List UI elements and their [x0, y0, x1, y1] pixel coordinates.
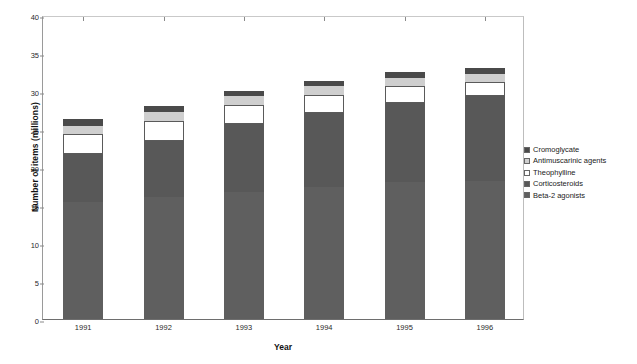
bar-segment	[144, 141, 184, 197]
legend-swatch-icon	[524, 147, 530, 153]
bar-segment	[465, 82, 505, 96]
x-tick-mark	[164, 17, 165, 21]
legend-item-label: Theophylline	[533, 167, 576, 178]
stacked-bar[interactable]	[144, 106, 184, 319]
bar-segment	[465, 96, 505, 181]
x-tick-mark	[405, 17, 406, 21]
stacked-bar[interactable]	[224, 91, 264, 319]
y-tick-mark	[40, 321, 44, 322]
y-tick-label: 40	[13, 13, 39, 22]
legend: CromoglycateAntimuscarinic agentsTheophy…	[519, 138, 636, 207]
bar-column	[224, 17, 264, 319]
stacked-bar-chart: Number of items (millions) 0510152025303…	[0, 0, 637, 364]
legend-item[interactable]: Theophylline	[524, 167, 633, 178]
bar-column	[144, 17, 184, 319]
bar-segment	[224, 192, 264, 319]
bar-column	[63, 17, 103, 319]
y-tick-label: 5	[13, 279, 39, 288]
bar-segment	[304, 95, 344, 113]
plot-area: 0510152025303540 19911992199319941995199…	[42, 16, 524, 320]
bar-segment	[144, 197, 184, 319]
y-tick-label: 0	[13, 317, 39, 326]
x-tick-label: 1995	[375, 323, 435, 332]
y-tick-mark	[40, 55, 44, 56]
legend-item-label: Corticosteroids	[533, 178, 583, 189]
bar-segment	[385, 78, 425, 86]
x-tick-label: 1991	[53, 323, 113, 332]
bar-segment	[63, 126, 103, 134]
x-tick-mark	[83, 17, 84, 21]
y-tick-label: 35	[13, 51, 39, 60]
x-tick-label: 1996	[455, 323, 515, 332]
legend-swatch-icon	[524, 170, 530, 176]
bar-segment	[224, 124, 264, 192]
legend-swatch-icon	[524, 158, 530, 164]
stacked-bar[interactable]	[304, 81, 344, 319]
legend-item-label: Antimuscarinic agents	[533, 155, 606, 166]
bar-segment	[63, 154, 103, 202]
legend-swatch-icon	[524, 181, 530, 187]
y-tick-label: 30	[13, 89, 39, 98]
bar-segment	[385, 103, 425, 182]
stacked-bar[interactable]	[385, 72, 425, 319]
x-axis-label: Year	[42, 342, 524, 352]
bar-segment	[385, 182, 425, 319]
legend-item-label: Beta-2 agonists	[533, 190, 585, 201]
legend-item[interactable]: Beta-2 agonists	[524, 190, 633, 201]
y-tick-mark	[40, 283, 44, 284]
stacked-bar[interactable]	[63, 119, 103, 319]
y-tick-mark	[40, 245, 44, 246]
x-tick-mark	[324, 17, 325, 21]
y-tick-label: 10	[13, 241, 39, 250]
y-tick-label: 20	[13, 165, 39, 174]
y-tick-label: 15	[13, 203, 39, 212]
bar-segment	[63, 134, 103, 154]
y-tick-label: 25	[13, 127, 39, 136]
bar-segment	[144, 121, 184, 142]
bar-segment	[304, 187, 344, 319]
bar-segment	[224, 96, 264, 104]
y-tick-mark	[40, 207, 44, 208]
legend-item[interactable]: Corticosteroids	[524, 178, 633, 189]
bar-segment	[63, 202, 103, 319]
y-tick-mark	[40, 93, 44, 94]
x-tick-mark	[244, 17, 245, 21]
x-tick-label: 1992	[134, 323, 194, 332]
x-tick-label: 1993	[214, 323, 274, 332]
legend-item-label: Cromoglycate	[533, 144, 579, 155]
x-tick-mark	[485, 17, 486, 21]
bar-segment	[224, 105, 264, 125]
bar-segment	[465, 181, 505, 319]
bar-segment	[144, 112, 184, 120]
bar-segment	[465, 74, 505, 82]
bar-segment	[63, 119, 103, 126]
bar-segment	[304, 113, 344, 187]
y-tick-mark	[40, 17, 44, 18]
bar-segment	[304, 86, 344, 94]
x-tick-label: 1994	[294, 323, 354, 332]
legend-swatch-icon	[524, 192, 530, 198]
bar-column	[465, 17, 505, 319]
stacked-bar[interactable]	[465, 68, 505, 319]
legend-item[interactable]: Antimuscarinic agents	[524, 155, 633, 166]
bar-segment	[385, 86, 425, 103]
bar-column	[385, 17, 425, 319]
bar-column	[304, 17, 344, 319]
legend-item[interactable]: Cromoglycate	[524, 144, 633, 155]
y-tick-mark	[40, 131, 44, 132]
y-tick-mark	[40, 169, 44, 170]
